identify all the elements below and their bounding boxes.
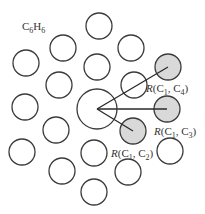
atom-circle: [43, 117, 69, 143]
atom-circle: [157, 138, 183, 164]
atom-circle: [84, 54, 110, 80]
atom-circle: [12, 94, 38, 120]
distance-label-r14: R(C1, C4): [145, 82, 189, 97]
distance-label-r12: R(C1, C2): [110, 147, 154, 162]
atom-circle: [50, 35, 76, 61]
molecule-label: C6H6: [22, 20, 45, 35]
atom-circle: [118, 35, 144, 61]
atom-circle: [13, 50, 39, 76]
atom-circle: [46, 72, 72, 98]
atom-circle: [121, 72, 147, 98]
atom-circle: [81, 179, 107, 205]
distance-label-r13: R(C1, C3): [153, 125, 197, 140]
atom-circle: [86, 13, 112, 39]
atom-circle: [9, 139, 35, 165]
atom-circle: [49, 158, 75, 184]
benzene-distance-diagram: C6H6 R(C1, C4)R(C1, C3)R(C1, C2): [0, 0, 205, 214]
atom-circle: [81, 140, 107, 166]
atom-circle: [115, 159, 141, 185]
